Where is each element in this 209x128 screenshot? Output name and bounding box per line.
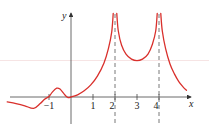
chart: −11234 x y: [0, 0, 209, 128]
curve-layer: [7, 13, 186, 108]
x-tick-label-4: 4: [154, 100, 159, 111]
x-tick-label-1: 1: [91, 100, 96, 111]
curve-segment-1: [117, 13, 157, 60]
tick-layer: −11234: [44, 94, 159, 111]
x-tick-label-0: −1: [44, 100, 55, 111]
x-tick-label-3: 3: [135, 100, 140, 111]
curve-segment-2: [161, 13, 187, 90]
x-axis-label: x: [188, 98, 194, 109]
x-tick-label-2: 2: [110, 100, 115, 111]
curve-segment-0: [7, 13, 113, 108]
y-axis-label: y: [61, 10, 67, 21]
